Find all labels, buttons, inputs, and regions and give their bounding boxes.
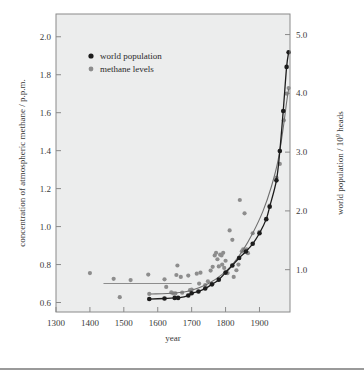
methane-data-point — [223, 259, 227, 263]
methane-data-point — [209, 269, 213, 273]
x-tick-label: 1400 — [81, 318, 100, 328]
x-tick-label: 1700 — [183, 318, 202, 328]
methane-data-point — [236, 262, 240, 266]
methane-data-point — [175, 263, 179, 267]
methane-data-point — [186, 273, 190, 277]
methane-data-point — [162, 277, 166, 281]
y-left-tick-label: 0.8 — [40, 260, 52, 270]
methane-data-point — [228, 228, 232, 232]
y-axis-right-title-tail: heads — [335, 111, 345, 134]
methane-data-point — [238, 198, 242, 202]
world-population-data-point — [237, 256, 242, 261]
methane-data-point — [242, 211, 246, 215]
x-tick-label: 1300 — [47, 318, 66, 328]
world-population-data-point — [176, 296, 181, 301]
world-population-data-point — [216, 277, 221, 282]
world-population-data-point — [281, 109, 286, 114]
methane-data-point — [222, 266, 226, 270]
y-right-tick-label: 3.0 — [296, 147, 308, 157]
world-population-data-point — [267, 204, 272, 209]
x-tick-label: 1600 — [149, 318, 168, 328]
methane-data-point — [112, 277, 116, 281]
methane-data-point — [234, 268, 238, 272]
methane-data-point — [147, 292, 151, 296]
methane-data-point — [197, 281, 201, 285]
world-population-data-point — [147, 297, 152, 302]
methane-population-chart: 0.60.81.01.21.41.61.82.0 1.02.03.04.05.0… — [0, 0, 364, 379]
methane-data-point — [214, 251, 218, 255]
methane-data-point — [146, 273, 150, 277]
plot-area-background — [56, 14, 290, 312]
methane-data-point — [221, 251, 225, 255]
methane-data-point — [232, 275, 236, 279]
y-right-tick-label: 5.0 — [296, 30, 308, 40]
y-right-tick-label: 4.0 — [296, 88, 308, 98]
world-population-data-point — [284, 65, 289, 70]
world-population-data-point — [264, 217, 269, 222]
world-population-data-point — [196, 289, 201, 294]
y-right-tick-label: 1.0 — [296, 265, 308, 275]
legend-marker-methane-levels — [89, 67, 94, 72]
y-left-tick-label: 1.2 — [40, 184, 51, 194]
y-left-tick-label: 1.4 — [40, 146, 52, 156]
methane-data-point — [195, 272, 199, 276]
world-population-data-point — [189, 291, 194, 296]
methane-data-point — [211, 265, 215, 269]
world-population-data-point — [230, 263, 235, 268]
world-population-data-point — [257, 231, 262, 236]
methane-data-point — [198, 271, 202, 275]
y-left-tick-label: 1.0 — [40, 222, 52, 232]
y-axis-right-title-main: world population / 10 — [335, 137, 345, 215]
legend-marker-world-population — [88, 53, 93, 58]
world-population-data-point — [203, 286, 208, 291]
methane-data-point — [164, 285, 168, 289]
y-left-tick-label: 2.0 — [40, 32, 52, 42]
world-population-data-point — [244, 249, 249, 254]
world-population-data-point — [223, 270, 228, 275]
y-left-tick-label: 1.6 — [40, 108, 52, 118]
x-tick-label: 1900 — [250, 318, 269, 328]
methane-data-point — [118, 295, 122, 299]
methane-data-point — [230, 238, 234, 242]
methane-data-point — [88, 271, 92, 275]
y-axis-right-title: world population / 109 heads — [334, 111, 345, 215]
methane-data-point — [179, 275, 183, 279]
x-tick-label: 1500 — [115, 318, 134, 328]
y-right-tick-label: 2.0 — [296, 206, 308, 216]
world-population-data-point — [274, 178, 279, 183]
figure-container: 0.60.81.01.21.41.61.82.0 1.02.03.04.05.0… — [0, 0, 364, 379]
x-axis-title: year — [165, 333, 181, 343]
x-tick-label: 1800 — [217, 318, 236, 328]
y-axis-left-title: concentration of atmospheric methane / p… — [17, 79, 27, 246]
methane-data-point — [129, 278, 133, 282]
methane-data-point — [215, 257, 219, 261]
legend-label-world-population: world population — [100, 51, 162, 61]
world-population-data-point — [210, 282, 215, 287]
world-population-data-point — [278, 149, 283, 154]
world-population-data-point — [162, 296, 167, 301]
y-left-tick-label: 0.6 — [40, 298, 52, 308]
methane-data-point — [174, 273, 178, 277]
legend-label-methane-levels: methane levels — [100, 64, 154, 74]
world-population-data-point — [250, 242, 255, 247]
y-left-tick-label: 1.8 — [40, 70, 52, 80]
